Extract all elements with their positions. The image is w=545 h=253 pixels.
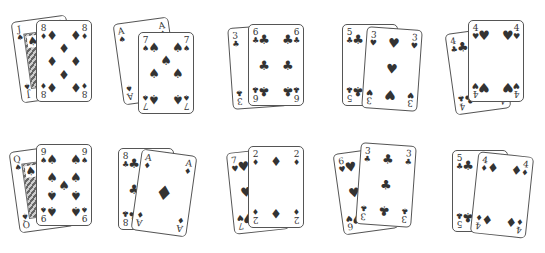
diamonds-icon: ♦ bbox=[46, 29, 59, 42]
corner-index: 3♣ bbox=[230, 31, 240, 49]
corner-index: 3♥ bbox=[405, 90, 415, 108]
corner-index: A♦ bbox=[183, 159, 194, 177]
diamonds-icon: ♦ bbox=[183, 167, 193, 176]
diamonds-icon: ♦ bbox=[46, 55, 59, 68]
clubs-icon: ♣ bbox=[359, 203, 369, 212]
corner-index: A♠ bbox=[116, 27, 127, 45]
card-pair: 6♥6♥6♥6♥♥♥♥♥♥♥3♣3♣3♣3♣♣♣♣ bbox=[330, 140, 430, 253]
hearts-icon: ♥ bbox=[387, 37, 401, 51]
diamonds-icon: ♦ bbox=[58, 67, 71, 80]
diamonds-icon: ♦ bbox=[69, 80, 82, 93]
hearts-icon: ♥ bbox=[343, 160, 358, 175]
card-pair: Q♠Q♠Q♠Q♠♠9♠9♠9♠9♠♠♠♠♠♠♠♠♠♠ bbox=[8, 140, 108, 253]
card-front-4-of-hearts[interactable]: 4♥4♥4♥4♥♥♥♥♥ bbox=[468, 20, 524, 102]
card-pair: 3♣3♣3♣3♣♣♣♣6♣6♣6♣6♣♣♣♣♣♣♣ bbox=[220, 14, 320, 129]
clubs-icon: ♣ bbox=[281, 59, 294, 72]
corner-index: 3♣ bbox=[358, 203, 368, 221]
hearts-icon: ♥ bbox=[501, 80, 514, 93]
diamonds-icon: ♦ bbox=[69, 29, 82, 42]
rank-label: 2 bbox=[292, 215, 301, 224]
diamonds-icon: ♦ bbox=[292, 207, 301, 215]
corner-index: A♦ bbox=[142, 153, 153, 171]
diamonds-icon: ♦ bbox=[270, 155, 283, 168]
card-pair: A♠A♠A♠A♠♠7♠7♠7♠7♠♠♠♠♠♠♠♠ bbox=[108, 14, 208, 129]
spades-icon: ♠ bbox=[124, 83, 134, 92]
diamonds-icon: ♦ bbox=[292, 159, 301, 167]
spades-icon: ♠ bbox=[148, 67, 161, 80]
spades-icon: ♠ bbox=[117, 35, 127, 44]
spades-icon: ♠ bbox=[69, 171, 82, 184]
card-pair: 7♥7♥7♥7♥♥♥♥♥♥♥♥2♦2♦2♦2♦♦♦ bbox=[220, 140, 320, 253]
clubs-icon: ♣ bbox=[462, 159, 475, 172]
card-pair: 5♣5♣5♣5♣♣♣♣♣♣3♥3♥3♥3♥♥♥♥ bbox=[330, 14, 430, 129]
card-pair: 8♣8♣8♣8♣♣♣♣♣♣♣♣♣A♦A♦A♦A♦♦ bbox=[108, 140, 208, 253]
corner-index: 2♦ bbox=[251, 150, 260, 167]
spades-icon: ♠ bbox=[148, 92, 161, 105]
clubs-icon: ♣ bbox=[379, 178, 393, 192]
diamonds-icon: ♦ bbox=[69, 55, 82, 68]
card-front-8-of-diamonds[interactable]: 8♦8♦8♦8♦♦♦♦♦♦♦♦♦ bbox=[36, 20, 92, 102]
card-pair: 4♣4♣4♣4♣♣♣♣♣4♥4♥4♥4♥♥♥♥♥ bbox=[440, 14, 540, 129]
clubs-icon: ♣ bbox=[258, 33, 271, 46]
corner-index: 3♣ bbox=[399, 206, 409, 224]
card-front-3-of-clubs[interactable]: 3♣3♣3♣3♣♣♣♣ bbox=[355, 142, 417, 228]
diamonds-icon: ♦ bbox=[251, 159, 260, 167]
corner-index: 3♥ bbox=[364, 87, 374, 105]
clubs-icon: ♣ bbox=[258, 59, 271, 72]
clubs-icon: ♣ bbox=[231, 40, 241, 49]
hearts-icon: ♥ bbox=[501, 29, 514, 42]
diamonds-icon: ♦ bbox=[153, 182, 176, 205]
spades-icon: ♠ bbox=[46, 204, 59, 217]
diamonds-icon: ♦ bbox=[504, 215, 518, 229]
diamonds-icon: ♦ bbox=[270, 206, 283, 219]
corner-index: 3♣ bbox=[362, 146, 372, 164]
spades-icon: ♠ bbox=[148, 41, 161, 54]
spades-icon: ♠ bbox=[46, 188, 59, 201]
spades-icon: ♠ bbox=[46, 153, 59, 166]
hearts-icon: ♥ bbox=[368, 39, 378, 48]
hearts-icon: ♥ bbox=[478, 80, 491, 93]
spades-icon: ♠ bbox=[171, 41, 184, 54]
spades-icon: ♠ bbox=[69, 204, 82, 217]
clubs-icon: ♣ bbox=[403, 158, 413, 167]
diamonds-icon: ♦ bbox=[58, 42, 71, 55]
clubs-icon: ♣ bbox=[234, 88, 244, 97]
corner-index: 3♥ bbox=[409, 33, 419, 51]
diamonds-icon: ♦ bbox=[176, 215, 186, 224]
hearts-icon: ♥ bbox=[385, 62, 399, 76]
hearts-icon: ♥ bbox=[383, 88, 397, 102]
card-front-4-of-diamonds[interactable]: 4♦4♦4♦4♦♦♦♦♦ bbox=[470, 151, 534, 238]
clubs-icon: ♣ bbox=[352, 33, 365, 46]
spades-icon: ♠ bbox=[171, 92, 184, 105]
diamonds-icon: ♦ bbox=[142, 162, 152, 171]
corner-index: 3♣ bbox=[234, 88, 244, 106]
card-front-a-of-diamonds[interactable]: A♦A♦A♦A♦♦ bbox=[131, 149, 198, 238]
diamonds-icon: ♦ bbox=[480, 212, 494, 226]
diamonds-icon: ♦ bbox=[509, 164, 523, 178]
corner-index: A♠ bbox=[124, 83, 135, 101]
card-pair: J♠J♠J♠J♠♠8♦8♦8♦8♦♦♦♦♦♦♦♦♦ bbox=[8, 14, 108, 129]
clubs-icon: ♣ bbox=[377, 204, 391, 218]
spades-icon: ♠ bbox=[160, 54, 173, 67]
card-front-9-of-spades[interactable]: 9♠9♠9♠9♠♠♠♠♠♠♠♠♠♠ bbox=[36, 144, 92, 226]
diamonds-icon: ♦ bbox=[486, 161, 500, 175]
diamonds-icon: ♦ bbox=[251, 207, 260, 215]
clubs-icon: ♣ bbox=[400, 206, 410, 215]
card-front-2-of-diamonds[interactable]: 2♦2♦2♦2♦♦♦ bbox=[248, 146, 304, 228]
corner-index: 2♦ bbox=[292, 150, 301, 167]
clubs-icon: ♣ bbox=[362, 155, 372, 164]
corner-index: 2♦ bbox=[251, 207, 260, 224]
corner-index: 3♥ bbox=[368, 30, 378, 48]
card-front-3-of-hearts[interactable]: 3♥3♥3♥3♥♥♥♥ bbox=[361, 26, 423, 112]
hearts-icon: ♥ bbox=[406, 90, 416, 99]
card-front-7-of-spades[interactable]: 7♠7♠7♠7♠♠♠♠♠♠♠♠ bbox=[138, 32, 194, 114]
spades-icon: ♠ bbox=[171, 67, 184, 80]
diamonds-icon: ♦ bbox=[135, 209, 145, 218]
clubs-icon: ♣ bbox=[281, 33, 294, 46]
clubs-icon: ♣ bbox=[258, 84, 271, 97]
spades-icon: ♠ bbox=[69, 188, 82, 201]
card-front-6-of-clubs[interactable]: 6♣6♣6♣6♣♣♣♣♣♣♣ bbox=[248, 24, 304, 106]
clubs-icon: ♣ bbox=[381, 153, 395, 167]
clubs-icon: ♣ bbox=[281, 84, 294, 97]
card-pair: 5♣5♣5♣5♣♣♣♣♣♣4♦4♦4♦4♦♦♦♦♦ bbox=[440, 140, 540, 253]
